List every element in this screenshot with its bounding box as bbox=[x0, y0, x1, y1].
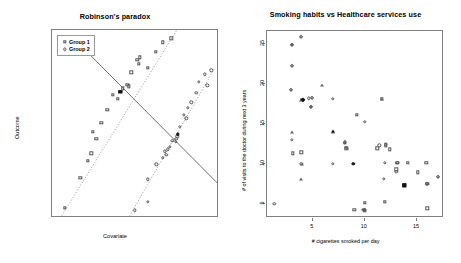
right-plot-area bbox=[266, 30, 443, 217]
data-point bbox=[290, 42, 295, 47]
data-point bbox=[291, 152, 294, 155]
data-point bbox=[383, 161, 386, 164]
group-mean-point bbox=[119, 90, 122, 93]
x-tick-label: 5 bbox=[310, 223, 313, 229]
data-point bbox=[299, 34, 304, 39]
data-point bbox=[273, 202, 276, 205]
right-y-axis-label: # of visits to the doctor during next 3 … bbox=[241, 90, 247, 191]
two-panel-scatter-figure: Robinson's paradox Group 1 Group 2 Covar… bbox=[0, 0, 461, 263]
data-point bbox=[105, 108, 108, 111]
data-point bbox=[63, 206, 66, 209]
data-point bbox=[116, 97, 119, 100]
data-point bbox=[146, 66, 149, 69]
data-point bbox=[331, 162, 334, 165]
data-point bbox=[406, 161, 409, 164]
legend-item-group-1[interactable]: Group 1 bbox=[61, 39, 90, 46]
data-point bbox=[376, 147, 379, 150]
group-mean-point bbox=[352, 162, 355, 165]
data-point bbox=[79, 176, 82, 179]
left-legend: Group 1 Group 2 bbox=[57, 35, 95, 56]
legend-label-group-1: Group 1 bbox=[69, 39, 90, 46]
data-point bbox=[91, 130, 94, 133]
data-point bbox=[127, 85, 130, 88]
group-mean-point bbox=[403, 184, 406, 187]
data-point bbox=[90, 151, 93, 154]
left-x-axis-label: Covariate bbox=[0, 233, 230, 239]
data-point bbox=[86, 159, 89, 162]
data-point bbox=[320, 83, 324, 86]
legend-item-group-2[interactable]: Group 2 bbox=[61, 46, 90, 53]
data-point bbox=[137, 62, 140, 65]
data-point bbox=[378, 144, 381, 147]
data-point bbox=[355, 113, 358, 116]
square-marker-icon bbox=[61, 39, 69, 46]
left-y-axis-label: Outcome bbox=[14, 116, 20, 139]
pooled-trend bbox=[72, 37, 218, 185]
x-tick bbox=[312, 218, 313, 221]
y-tick-label: 10 bbox=[259, 160, 265, 166]
x-tick-label: 10 bbox=[361, 223, 367, 229]
data-point bbox=[331, 97, 334, 100]
data-point bbox=[100, 121, 103, 124]
left-plot-area bbox=[51, 29, 218, 217]
data-point bbox=[154, 50, 157, 53]
data-point bbox=[394, 170, 397, 173]
data-point bbox=[290, 130, 294, 133]
data-point bbox=[363, 120, 366, 123]
group-1-trend bbox=[57, 29, 177, 217]
y-tick-label: 5 bbox=[259, 201, 265, 204]
y-tick-label: 20 bbox=[259, 80, 265, 86]
group-mean-point bbox=[301, 97, 306, 102]
y-tick-label: 25 bbox=[259, 40, 265, 46]
right-panel-title: Smoking habits vs Healthcare services us… bbox=[230, 10, 461, 19]
data-point bbox=[138, 56, 141, 59]
data-point bbox=[383, 200, 386, 203]
data-point bbox=[161, 41, 164, 44]
data-point bbox=[299, 177, 303, 180]
data-point bbox=[130, 71, 133, 74]
data-point bbox=[300, 151, 303, 154]
data-point bbox=[310, 96, 315, 101]
panel-smoking-vs-healthcare: Smoking habits vs Healthcare services us… bbox=[230, 0, 461, 263]
data-point bbox=[170, 37, 173, 40]
data-point bbox=[388, 148, 391, 151]
data-point bbox=[308, 105, 313, 110]
data-point bbox=[416, 171, 419, 174]
data-point bbox=[425, 161, 428, 164]
x-tick bbox=[364, 218, 365, 221]
left-panel-title: Robinson's paradox bbox=[0, 12, 230, 21]
data-point bbox=[380, 97, 384, 100]
data-point bbox=[111, 93, 114, 96]
legend-label-group-2: Group 2 bbox=[69, 46, 90, 53]
x-tick bbox=[416, 218, 417, 221]
data-point bbox=[95, 137, 98, 140]
data-point bbox=[435, 175, 440, 180]
data-point bbox=[363, 201, 366, 204]
circle-marker-icon bbox=[61, 46, 69, 53]
data-point bbox=[290, 64, 295, 69]
data-point bbox=[353, 208, 356, 211]
group-mean-point bbox=[331, 129, 335, 132]
y-tick-label: 15 bbox=[259, 120, 265, 126]
data-point bbox=[290, 138, 293, 141]
right-x-axis-label: # cigarettes smoked per day bbox=[230, 238, 461, 244]
x-tick-label: 15 bbox=[413, 223, 419, 229]
data-point bbox=[300, 162, 304, 165]
data-point bbox=[382, 177, 385, 180]
panel-robinsons-paradox: Robinson's paradox Group 1 Group 2 Covar… bbox=[0, 0, 230, 263]
data-point bbox=[426, 207, 429, 210]
data-point bbox=[289, 88, 294, 93]
data-point bbox=[343, 140, 347, 143]
data-point bbox=[345, 147, 349, 150]
